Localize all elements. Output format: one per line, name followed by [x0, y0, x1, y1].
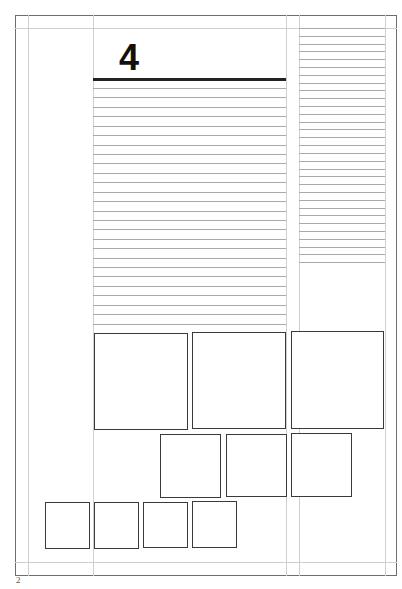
- image-frame-small-1[interactable]: [45, 502, 90, 549]
- chapter-heading-rule: [93, 78, 286, 81]
- text-line-placeholder: [299, 223, 385, 224]
- text-line-placeholder: [93, 145, 286, 146]
- text-line-placeholder: [93, 192, 286, 193]
- text-line-placeholder: [299, 90, 385, 91]
- side-column-text-block: [299, 28, 385, 270]
- text-line-placeholder: [299, 215, 385, 216]
- text-line-placeholder: [93, 88, 286, 89]
- image-frame-large-1[interactable]: [94, 333, 188, 430]
- text-line-placeholder: [93, 286, 286, 287]
- image-frame-small-3[interactable]: [143, 502, 188, 548]
- text-line-placeholder: [299, 122, 385, 123]
- text-line-placeholder: [299, 59, 385, 60]
- text-line-placeholder: [93, 295, 286, 296]
- text-line-placeholder: [299, 114, 385, 115]
- text-line-placeholder: [299, 83, 385, 84]
- text-line-placeholder: [93, 135, 286, 136]
- image-frame-medium-3[interactable]: [291, 433, 352, 497]
- text-line-placeholder: [299, 36, 385, 37]
- margin-guide-right: [385, 15, 386, 576]
- text-line-placeholder: [93, 211, 286, 212]
- text-line-placeholder: [299, 247, 385, 248]
- text-line-placeholder: [299, 200, 385, 201]
- text-line-placeholder: [93, 220, 286, 221]
- text-line-placeholder: [299, 137, 385, 138]
- text-line-placeholder: [299, 67, 385, 68]
- image-frame-medium-1[interactable]: [160, 434, 221, 498]
- text-line-placeholder: [299, 184, 385, 185]
- text-line-placeholder: [93, 267, 286, 268]
- text-line-placeholder: [93, 239, 286, 240]
- text-line-placeholder: [93, 314, 286, 315]
- text-line-placeholder: [299, 145, 385, 146]
- text-line-placeholder: [299, 262, 385, 263]
- text-line-placeholder: [299, 192, 385, 193]
- text-line-placeholder: [93, 258, 286, 259]
- text-line-placeholder: [299, 28, 385, 29]
- page-number: 2: [16, 575, 21, 585]
- text-line-placeholder: [299, 75, 385, 76]
- text-line-placeholder: [299, 231, 385, 232]
- text-line-placeholder: [93, 276, 286, 277]
- text-line-placeholder: [93, 248, 286, 249]
- text-line-placeholder: [93, 201, 286, 202]
- text-line-placeholder: [299, 239, 385, 240]
- text-line-placeholder: [299, 169, 385, 170]
- text-line-placeholder: [93, 229, 286, 230]
- text-line-placeholder: [299, 153, 385, 154]
- image-frame-small-2[interactable]: [94, 502, 139, 549]
- text-line-placeholder: [299, 106, 385, 107]
- text-line-placeholder: [299, 51, 385, 52]
- text-line-placeholder: [299, 129, 385, 130]
- text-line-placeholder: [299, 161, 385, 162]
- text-line-placeholder: [93, 182, 286, 183]
- image-frame-large-3[interactable]: [291, 331, 384, 429]
- image-frame-large-2[interactable]: [192, 332, 286, 429]
- text-line-placeholder: [299, 254, 385, 255]
- main-column-text-block: [93, 88, 286, 333]
- text-line-placeholder: [93, 97, 286, 98]
- image-frame-medium-2[interactable]: [226, 434, 287, 497]
- image-frame-small-4[interactable]: [192, 501, 237, 548]
- text-line-placeholder: [299, 208, 385, 209]
- text-line-placeholder: [93, 305, 286, 306]
- text-line-placeholder: [299, 176, 385, 177]
- margin-guide-left: [28, 15, 29, 576]
- text-line-placeholder: [93, 324, 286, 325]
- text-line-placeholder: [93, 107, 286, 108]
- text-line-placeholder: [299, 44, 385, 45]
- margin-guide-bottom: [15, 562, 397, 563]
- chapter-number: 4: [119, 40, 139, 76]
- text-line-placeholder: [299, 98, 385, 99]
- text-line-placeholder: [93, 126, 286, 127]
- text-line-placeholder: [93, 173, 286, 174]
- text-line-placeholder: [93, 163, 286, 164]
- text-line-placeholder: [93, 154, 286, 155]
- text-line-placeholder: [93, 116, 286, 117]
